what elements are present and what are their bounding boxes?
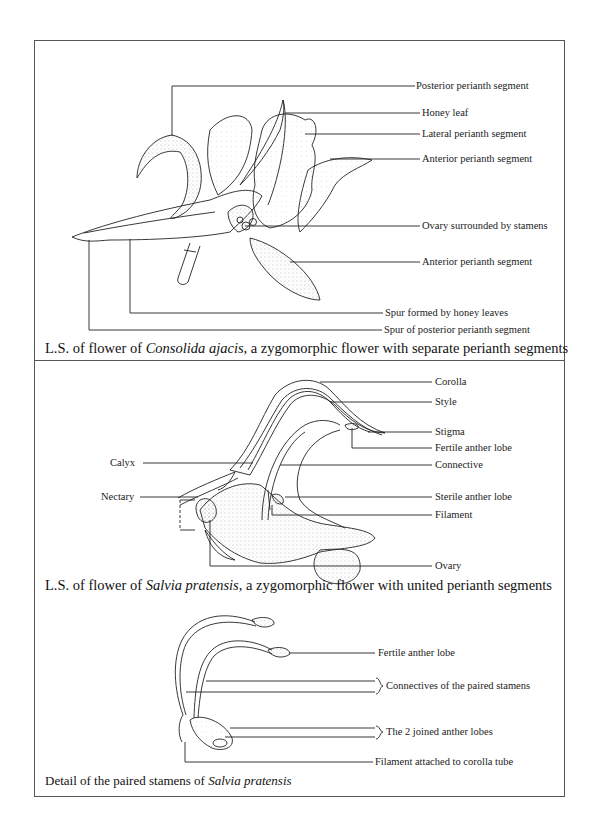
label-corolla: Corolla [435,376,467,388]
caption-species: Salvia pratensis, [146,577,243,593]
caption-text: L.S. of flower of [45,577,146,593]
caption-consolida: L.S. of flower of Consolida ajacis, a zy… [45,340,568,356]
caption-text: Detail of the paired stamens of [45,773,208,788]
label-stigma: Stigma [435,426,465,438]
label-joined-anther-lobes: The 2 joined anther lobes [386,726,493,738]
caption-species: Salvia pratensis [208,773,291,788]
salvia-flower-drawing [178,380,385,584]
label-fertile-anther-lobe-detail: Fertile anther lobe [378,647,455,659]
label-connectives-paired-stamens: Connectives of the paired stamens [386,680,530,692]
label-nectary: Nectary [101,491,134,503]
label-fertile-anther-lobe: Fertile anther lobe [435,442,512,454]
label-calyx: Calyx [110,457,135,469]
label-ovary: Ovary [435,560,461,572]
caption-text: , a zygomorphic flower with separate per… [244,340,569,356]
label-style: Style [435,396,457,408]
illustrations [0,0,599,837]
label-honey-leaf: Honey leaf [422,107,468,119]
label-anterior-perianth-segment-upper: Anterior perianth segment [422,153,532,165]
label-connective: Connective [435,459,483,471]
caption-species: Consolida ajacis [146,340,244,356]
stamens-drawing [175,616,290,750]
label-ovary-surrounded-by-stamens: Ovary surrounded by stamens [422,220,548,232]
label-spur-honey-leaves: Spur formed by honey leaves [385,307,508,319]
botanical-figure: Posterior perianth segment Honey leaf La… [0,0,599,837]
caption-text: L.S. of flower of [45,340,146,356]
label-lateral-perianth-segment: Lateral perianth segment [422,128,526,140]
label-posterior-perianth-segment: Posterior perianth segment [416,80,529,92]
consolida-flower-drawing [72,100,372,300]
label-sterile-anther-lobe: Sterile anther lobe [435,491,512,503]
label-spur-posterior-perianth: Spur of posterior perianth segment [384,324,530,336]
caption-text: a zygomorphic flower with united periant… [242,577,552,593]
label-filament-corolla-tube: Filament attached to corolla tube [375,756,513,768]
caption-salvia: L.S. of flower of Salvia pratensis, a zy… [45,577,552,593]
label-filament: Filament [435,509,472,521]
label-anterior-perianth-segment-lower: Anterior perianth segment [422,256,532,268]
caption-stamens: Detail of the paired stamens of Salvia p… [45,773,292,789]
